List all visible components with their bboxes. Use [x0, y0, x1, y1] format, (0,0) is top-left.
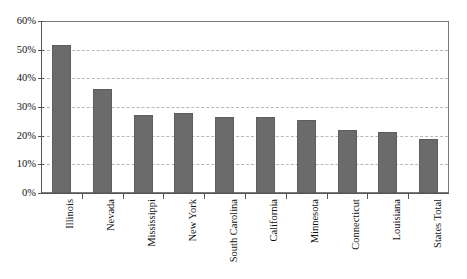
bar: [338, 130, 357, 193]
y-tick-label: 60%: [17, 16, 36, 27]
bar: [134, 115, 153, 193]
bar: [256, 117, 275, 193]
bar: [52, 45, 71, 193]
bar: [419, 139, 438, 193]
x-category-label: California: [269, 199, 280, 242]
x-category-label: New York: [188, 199, 199, 242]
bar: [297, 120, 316, 193]
bar: [174, 113, 193, 193]
y-tick-label: 50%: [17, 44, 36, 55]
x-category-label: Nevada: [106, 199, 117, 231]
bar: [378, 132, 397, 193]
x-category-label: Mississippi: [147, 199, 158, 247]
bar: [93, 89, 112, 193]
y-tick-label: 0%: [22, 188, 36, 199]
x-category-label: Louisiana: [392, 199, 403, 240]
x-axis-category-labels: IllinoisNevadaMississippiNew YorkSouth C…: [41, 199, 449, 277]
x-category-label: States Total: [433, 199, 444, 248]
bar-chart: 0%10%20%30%40%50%60% IllinoisNevadaMissi…: [0, 0, 467, 279]
x-category-label: South Carolina: [229, 199, 240, 262]
bars-series: [42, 22, 448, 193]
y-tick-label: 10%: [17, 159, 36, 170]
x-category-label: Minnesota: [310, 199, 321, 243]
y-tick-label: 30%: [17, 102, 36, 113]
y-tick-label: 40%: [17, 73, 36, 84]
x-category-label: Illinois: [65, 199, 76, 229]
y-tick-label: 20%: [17, 130, 36, 141]
bar: [215, 117, 234, 193]
x-category-label: Connecticut: [351, 199, 362, 250]
